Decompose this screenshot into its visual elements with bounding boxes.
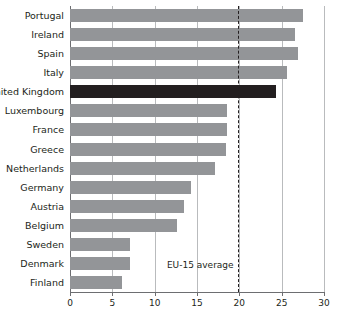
gridline-30 bbox=[324, 6, 325, 292]
bar-portugal bbox=[70, 9, 303, 22]
bar-row bbox=[70, 276, 324, 289]
bar-chart: 051015202530 PortugalIrelandSpainItalyUn… bbox=[0, 0, 337, 319]
category-label-spain: Spain bbox=[37, 47, 64, 60]
plot-area bbox=[70, 6, 324, 292]
bar-spain bbox=[70, 47, 298, 60]
bar-greece bbox=[70, 143, 226, 156]
category-label-austria: Austria bbox=[30, 200, 64, 213]
bar-row bbox=[70, 9, 324, 22]
bar-united-kingdom bbox=[70, 85, 276, 98]
x-tick-label-10: 10 bbox=[149, 298, 160, 309]
bar-belgium bbox=[70, 219, 177, 232]
category-label-belgium: Belgium bbox=[25, 219, 64, 232]
bar-row bbox=[70, 85, 324, 98]
x-tick-25 bbox=[282, 292, 283, 296]
bar-row bbox=[70, 162, 324, 175]
category-label-france: France bbox=[32, 123, 64, 136]
bar-row bbox=[70, 181, 324, 194]
average-line-label: EU-15 average bbox=[167, 260, 234, 271]
category-label-italy: Italy bbox=[43, 66, 64, 79]
bar-row bbox=[70, 123, 324, 136]
x-tick-5 bbox=[112, 292, 113, 296]
bar-row bbox=[70, 219, 324, 232]
category-label-greece: Greece bbox=[30, 143, 64, 156]
bar-denmark bbox=[70, 257, 130, 270]
x-tick-0 bbox=[70, 292, 71, 296]
bar-row bbox=[70, 28, 324, 41]
bar-row bbox=[70, 143, 324, 156]
bar-row bbox=[70, 66, 324, 79]
x-tick-label-15: 15 bbox=[191, 298, 202, 309]
bar-row bbox=[70, 104, 324, 117]
average-line bbox=[238, 6, 239, 292]
category-label-netherlands: Netherlands bbox=[6, 162, 64, 175]
bar-finland bbox=[70, 276, 122, 289]
bar-france bbox=[70, 123, 227, 136]
bar-ireland bbox=[70, 28, 295, 41]
x-tick-10 bbox=[155, 292, 156, 296]
bar-row bbox=[70, 47, 324, 60]
bar-netherlands bbox=[70, 162, 215, 175]
category-label-luxembourg: Luxembourg bbox=[5, 104, 64, 117]
bar-italy bbox=[70, 66, 287, 79]
x-tick-label-0: 0 bbox=[67, 298, 73, 309]
x-tick-30 bbox=[324, 292, 325, 296]
category-label-denmark: Denmark bbox=[20, 257, 64, 270]
x-tick-label-20: 20 bbox=[234, 298, 245, 309]
category-label-sweden: Sweden bbox=[26, 238, 64, 251]
bar-row bbox=[70, 200, 324, 213]
x-tick-15 bbox=[197, 292, 198, 296]
bar-sweden bbox=[70, 238, 130, 251]
category-label-finland: Finland bbox=[30, 276, 64, 289]
x-tick-label-25: 25 bbox=[276, 298, 287, 309]
category-label-portugal: Portugal bbox=[25, 9, 64, 22]
bar-austria bbox=[70, 200, 184, 213]
x-tick-20 bbox=[239, 292, 240, 296]
category-label-ireland: Ireland bbox=[31, 28, 64, 41]
category-label-germany: Germany bbox=[20, 181, 64, 194]
bar-luxembourg bbox=[70, 104, 227, 117]
x-tick-label-30: 30 bbox=[318, 298, 329, 309]
x-tick-label-5: 5 bbox=[109, 298, 115, 309]
bar-germany bbox=[70, 181, 191, 194]
bar-row bbox=[70, 238, 324, 251]
category-label-united-kingdom: United Kingdom bbox=[0, 85, 64, 98]
